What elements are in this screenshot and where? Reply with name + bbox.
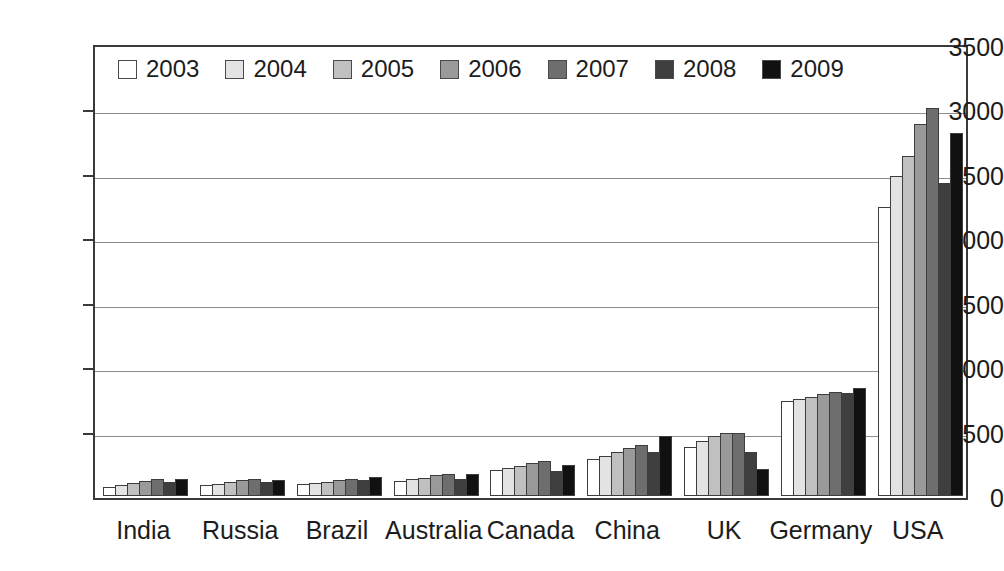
y-axis-tick-mark [83, 304, 93, 306]
bar-group [291, 49, 388, 496]
bar-group [194, 49, 291, 496]
bar [562, 465, 575, 496]
y-axis-tick-mark [83, 239, 93, 241]
bar-group [484, 49, 581, 496]
legend-item: 2009 [762, 57, 843, 81]
x-axis-category-label: Germany [769, 516, 872, 545]
chart-legend: 2003200420052006200720082009 [118, 57, 844, 81]
legend-item: 2006 [440, 57, 521, 81]
legend-item: 2003 [118, 57, 199, 81]
y-axis-tick-mark [83, 368, 93, 370]
legend-swatch-icon [655, 60, 674, 79]
legend-swatch-icon [548, 60, 567, 79]
bar-groups [97, 49, 964, 496]
bar [272, 480, 285, 496]
x-axis-category-label: Canada [487, 516, 575, 545]
x-axis-category-label: India [116, 516, 170, 545]
bar-group [774, 49, 871, 496]
bar-group [678, 49, 775, 496]
y-axis-tick-mark [83, 433, 93, 435]
plot-area [93, 45, 968, 500]
bar [659, 436, 672, 496]
legend-label: 2008 [683, 57, 736, 81]
legend-item: 2005 [333, 57, 414, 81]
x-axis-category-label: Brazil [306, 516, 369, 545]
legend-item: 2004 [225, 57, 306, 81]
y-axis-tick-label: 3500 [926, 33, 1004, 62]
legend-label: 2005 [361, 57, 414, 81]
legend-label: 2009 [790, 57, 843, 81]
bar [853, 388, 866, 496]
bar [369, 477, 382, 496]
x-axis-category-label: Russia [202, 516, 278, 545]
legend-label: 2004 [253, 57, 306, 81]
y-axis-tick-mark [83, 175, 93, 177]
legend-swatch-icon [333, 60, 352, 79]
legend-swatch-icon [762, 60, 781, 79]
legend-item: 2008 [655, 57, 736, 81]
bar [466, 474, 479, 496]
legend-label: 2007 [576, 57, 629, 81]
y-axis-tick-mark [83, 110, 93, 112]
legend-swatch-icon [118, 60, 137, 79]
bar-group [97, 49, 194, 496]
legend-swatch-icon [225, 60, 244, 79]
legend-label: 2006 [468, 57, 521, 81]
bar [950, 133, 963, 496]
x-axis-category-label: UK [707, 516, 742, 545]
bar [756, 469, 769, 496]
x-axis-category-label: China [595, 516, 660, 545]
legend-swatch-icon [440, 60, 459, 79]
legend-item: 2007 [548, 57, 629, 81]
legend-label: 2003 [146, 57, 199, 81]
bar-group [581, 49, 678, 496]
bar-chart: 0500100015002000250030003500 20032004200… [0, 0, 1004, 571]
x-axis-category-label: USA [892, 516, 943, 545]
bar [175, 479, 188, 496]
x-axis-category-label: Australia [385, 516, 482, 545]
bar-group [387, 49, 484, 496]
